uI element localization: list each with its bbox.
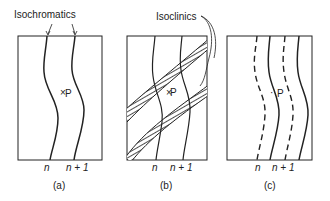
fringe-label-n-plus-1: n + 1	[66, 162, 89, 173]
panel-a-frame	[18, 36, 102, 160]
isochromatics-label: Isochromatics	[14, 9, 76, 20]
isoclinic-band-1	[125, 38, 212, 122]
isochromatic-fringe-n-plus-1	[72, 36, 84, 160]
isochromatic-fringe-n	[152, 36, 162, 160]
fringe-label-n: n	[255, 162, 261, 173]
photoelasticity-figure: Isochromatics × P n n + 1 (a) Isoclinics…	[0, 0, 330, 201]
point-marker: ·	[270, 87, 273, 98]
fringe-label-n: n	[152, 162, 158, 173]
panel-c-frame	[227, 36, 312, 160]
dashed-fringe-n	[254, 36, 265, 160]
point-p-label: P	[170, 87, 177, 98]
panel-b: Isoclinics × P n n + 1 (b)	[125, 11, 216, 191]
isochromatics-arrow-1	[48, 24, 52, 34]
fringe-label-n-plus-1: n + 1	[170, 162, 193, 173]
point-p-label: P	[65, 88, 72, 99]
fringe-label-n: n	[44, 162, 50, 173]
caption-c: (c)	[264, 180, 276, 191]
isochromatic-fringe-n	[44, 36, 58, 160]
fringe-label-n-plus-1: n + 1	[272, 162, 295, 173]
dashed-fringe-n-plus-1	[283, 36, 293, 160]
caption-a: (a)	[53, 180, 65, 191]
solid-fringe-n-plus-1	[297, 36, 308, 160]
point-p-label: P	[277, 88, 284, 99]
isochromatic-fringe-n-plus-1	[180, 36, 190, 160]
isoclinics-label: Isoclinics	[156, 11, 197, 22]
caption-b: (b)	[160, 180, 172, 191]
panel-c: · P n n + 1 (c)	[227, 36, 312, 191]
panel-a: Isochromatics × P n n + 1 (a)	[14, 9, 102, 191]
